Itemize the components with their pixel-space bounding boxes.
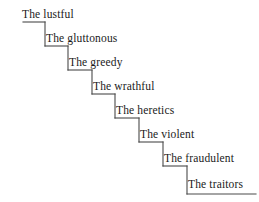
staircase-line-graphic (0, 0, 259, 202)
step-label: The gluttonous (46, 32, 117, 44)
step-label: The wrathful (93, 80, 155, 92)
step-label: The traitors (188, 178, 243, 190)
staircase-diagram: The lustfulThe gluttonousThe greedyThe w… (0, 0, 259, 202)
step-label: The violent (140, 128, 194, 140)
step-label: The fraudulent (164, 152, 234, 164)
step-label: The heretics (116, 104, 174, 116)
step-label: The lustful (22, 8, 74, 20)
step-label: The greedy (69, 56, 123, 68)
